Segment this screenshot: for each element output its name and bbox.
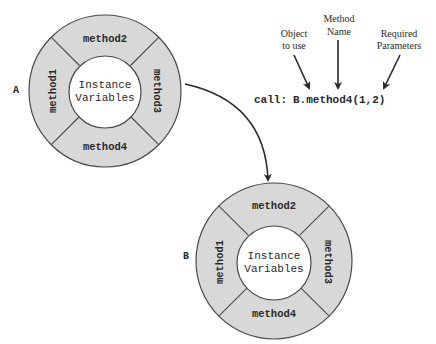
method-name-line1: Method — [323, 13, 354, 24]
object-a-method1: method1 — [47, 69, 59, 113]
object-b-method3: method3 — [322, 240, 334, 284]
required-parameters-line2: Parameters — [377, 40, 422, 51]
object-to-use-line2: to use — [282, 40, 306, 51]
diagram-canvas: A Instance Variables method2 method4 met… — [0, 0, 436, 344]
parameters-pointer-arrow — [384, 55, 400, 88]
instance-variables-line2: Variables — [75, 92, 134, 104]
required-parameters-line1: Required — [381, 28, 418, 39]
call-expression: B.method4(1,2) — [293, 94, 385, 106]
call-prefix: call: — [254, 94, 287, 106]
object-a: A Instance Variables method2 method4 met… — [13, 15, 181, 167]
object-a-method4: method4 — [83, 141, 127, 153]
object-a-label: A — [13, 85, 19, 96]
object-b-method1: method1 — [214, 240, 226, 284]
object-b: B Instance Variables method2 method4 met… — [183, 183, 352, 339]
object-to-use-line1: Object — [281, 28, 308, 39]
object-pointer-arrow — [294, 55, 309, 88]
object-b-method2: method2 — [252, 200, 296, 212]
object-b-method4: method4 — [252, 308, 296, 320]
object-a-method3: method3 — [151, 69, 163, 113]
call-annotation: Object to use Method Name Required Param… — [254, 13, 421, 106]
method-name-line2: Name — [327, 26, 351, 37]
object-b-label: B — [183, 251, 189, 262]
instance-variables-line1: Instance — [79, 79, 132, 91]
instance-variables-line1: Instance — [248, 250, 301, 262]
object-a-method2: method2 — [83, 33, 127, 45]
instance-variables-line2: Variables — [244, 263, 303, 275]
